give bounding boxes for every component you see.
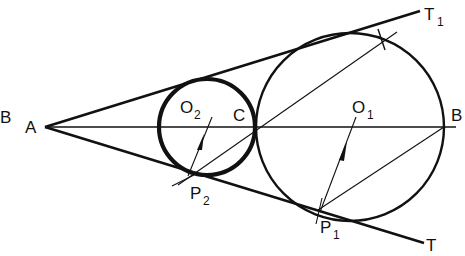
label-T1: T [424, 5, 434, 24]
label-B: B [451, 106, 462, 125]
label-C: C [233, 106, 245, 125]
tangent-line-T [45, 127, 424, 243]
label-O1: O [352, 98, 365, 117]
label-B-left: B [0, 108, 11, 127]
label-O2: O [180, 98, 193, 117]
arrowhead-O1 [339, 141, 347, 161]
label-P1-sub: 1 [333, 228, 340, 242]
label-P1: P [320, 218, 331, 237]
label-A: A [25, 118, 37, 137]
tangent-circles-diagram: B A T 1 T O 2 C O 1 B P 2 P 1 [0, 0, 465, 256]
label-P2: P [190, 184, 201, 203]
arrowhead-O2 [197, 134, 204, 150]
radius-O1-P1 [320, 117, 356, 212]
label-O1-sub: 1 [367, 108, 374, 122]
label-T: T [426, 236, 436, 255]
label-P2-sub: 2 [203, 194, 210, 208]
label-O2-sub: 2 [194, 108, 201, 122]
label-T1-sub: 1 [437, 15, 444, 29]
